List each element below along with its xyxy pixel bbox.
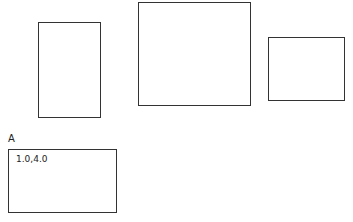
- rect-a-coordinates: 1.0,4.0: [16, 154, 48, 164]
- rect-left[interactable]: [38, 22, 101, 118]
- rect-a[interactable]: 1.0,4.0: [8, 149, 117, 213]
- rect-middle[interactable]: [138, 2, 251, 106]
- rect-a-label: A: [8, 133, 15, 144]
- rect-right[interactable]: [268, 37, 345, 101]
